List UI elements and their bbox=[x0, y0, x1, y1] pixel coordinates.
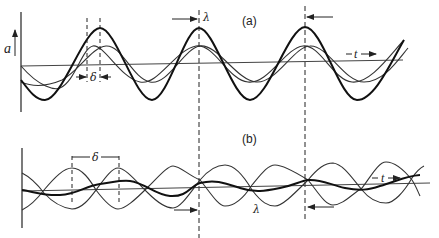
panel-b: δ λ (b) t bbox=[22, 132, 430, 228]
panel-a: a δ λ (a) t bbox=[4, 6, 408, 238]
time-label-b: t bbox=[381, 171, 385, 185]
resultant-wave-b bbox=[22, 175, 420, 196]
amplitude-label: a bbox=[4, 41, 11, 56]
phase-label-b: δ bbox=[92, 151, 99, 164]
panel-label-b: (b) bbox=[242, 132, 257, 146]
wavelength-label-b: λ bbox=[252, 203, 260, 216]
phase-label-a: δ bbox=[90, 71, 97, 84]
wavelength-label-a: λ bbox=[202, 11, 210, 24]
thin-wave-1-a bbox=[21, 40, 404, 89]
wave-superposition-diagram: a δ λ (a) t bbox=[0, 0, 439, 238]
panel-label-a: (a) bbox=[242, 14, 257, 28]
thin-wave-2-b bbox=[22, 162, 420, 210]
time-label-a: t bbox=[354, 47, 358, 61]
